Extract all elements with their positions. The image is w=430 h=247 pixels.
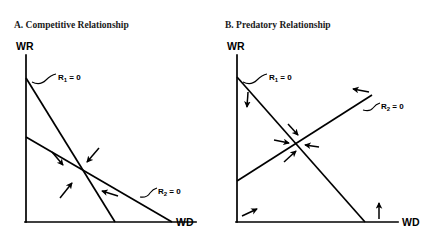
panel-b-title: B. Predatory Relationship — [225, 20, 331, 30]
phase-diagram-svg: A. Competitive Relationship WR WD R1 = 0… — [0, 0, 430, 247]
panel-b-r1-label: R1 = 0 — [269, 73, 292, 83]
panel-b-r2-equation: = 0 — [390, 102, 404, 111]
panel-b-r2-label: R2 = 0 — [381, 102, 404, 112]
panel-a-title: A. Competitive Relationship — [14, 20, 129, 30]
figure-container: A. Competitive Relationship WR WD R1 = 0… — [0, 0, 430, 247]
panel-a-r2-equation: = 0 — [167, 187, 181, 196]
panel-b-r1-equation: = 0 — [278, 73, 292, 82]
canvas-background — [0, 0, 430, 247]
panel-a-r2-label: R2 = 0 — [158, 187, 181, 197]
panel-a-y-axis-label: WR — [16, 40, 34, 52]
panel-a-r1-label: R1 = 0 — [58, 73, 81, 83]
panel-a-r1-equation: = 0 — [67, 73, 81, 82]
panel-b-y-axis-label: WR — [227, 40, 245, 52]
panel-b-x-axis-label: WD — [402, 216, 420, 228]
panel-b-arrow-axis-down — [247, 92, 248, 107]
